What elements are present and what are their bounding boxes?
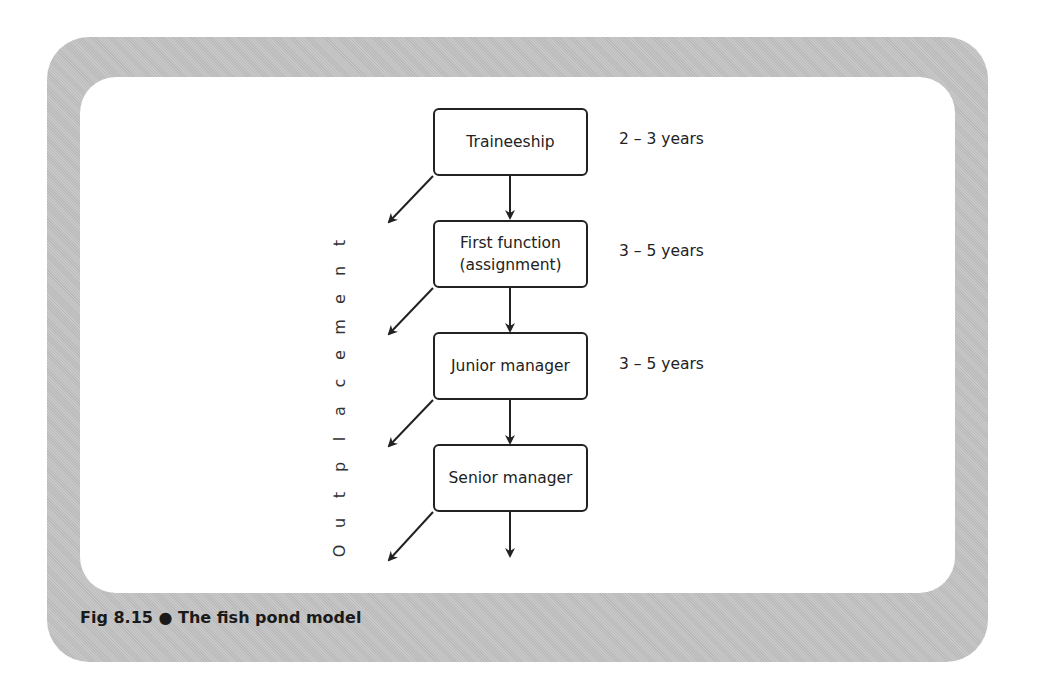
- outplacement-letter: O: [332, 545, 354, 558]
- outplacement-letter: p: [332, 462, 354, 472]
- outplacement-label: Outplacement: [330, 232, 356, 562]
- outplacement-letter: t: [332, 240, 354, 246]
- stage-duration: 3 – 5 years: [619, 355, 704, 373]
- outplacement-letter: c: [332, 379, 354, 388]
- stage-duration: 2 – 3 years: [619, 130, 704, 148]
- stage-box-senior-manager: Senior manager: [433, 444, 588, 512]
- stage-box-junior-manager: Junior manager: [433, 332, 588, 400]
- stage-label-line2: (assignment): [459, 254, 561, 276]
- outplacement-arrow-2: [389, 288, 433, 334]
- outplacement-arrow-3: [389, 400, 433, 446]
- stage-box-first-function: First function (assignment): [433, 220, 588, 288]
- outplacement-letter: n: [332, 266, 354, 276]
- outplacement-arrow-4: [389, 512, 433, 560]
- outplacement-letter: e: [332, 350, 354, 360]
- outplacement-arrow-1: [389, 176, 433, 222]
- outplacement-letter: m: [332, 319, 354, 335]
- outplacement-letter: l: [332, 437, 354, 441]
- stage-label: Traineeship: [466, 131, 554, 153]
- outplacement-letter: a: [332, 406, 354, 416]
- outplacement-letter: e: [332, 294, 354, 304]
- stage-label: Senior manager: [449, 467, 573, 489]
- figure-caption: Fig 8.15 ● The fish pond model: [80, 608, 361, 627]
- outplacement-letter: u: [332, 518, 354, 528]
- stage-label-line1: First function: [460, 232, 561, 254]
- stage-label: Junior manager: [451, 355, 570, 377]
- stage-box-traineeship: Traineeship: [433, 108, 588, 176]
- stage-duration: 3 – 5 years: [619, 242, 704, 260]
- outplacement-letter: t: [332, 492, 354, 498]
